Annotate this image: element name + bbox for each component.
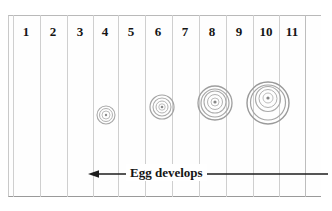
egg-develops-label: Egg develops <box>126 164 207 181</box>
column-label-10: 10 <box>253 24 279 39</box>
column-label-7: 7 <box>172 24 198 39</box>
column-label-4: 4 <box>92 24 118 39</box>
column-label-1: 1 <box>13 24 39 39</box>
column-label-2: 2 <box>40 24 66 39</box>
column-label-9: 9 <box>226 24 252 39</box>
egg-stage-2-icon <box>148 93 176 121</box>
column-label-3: 3 <box>67 24 93 39</box>
egg-development-figure: 1 2 3 4 5 6 7 8 9 10 11 <box>0 0 332 211</box>
egg-stage-3-icon <box>196 84 234 122</box>
egg-develops-annotation: Egg develops <box>0 164 332 186</box>
column-label-6: 6 <box>145 24 171 39</box>
column-label-11: 11 <box>279 24 305 39</box>
column-label-8: 8 <box>199 24 225 39</box>
column-label-5: 5 <box>118 24 144 39</box>
egg-stage-1-icon <box>95 104 117 126</box>
egg-stage-4-icon <box>245 79 291 125</box>
